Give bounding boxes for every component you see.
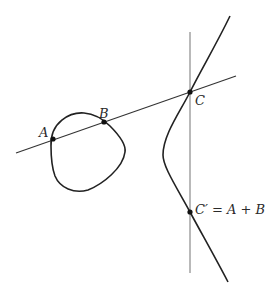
label-c: C [195,93,205,108]
label-c-prime-equals-a-plus-b: C′ = A + B [195,202,265,217]
label-a: A [38,125,48,140]
point-c-prime [187,209,192,214]
curve-unbounded-component [163,16,230,282]
secant-line [16,76,236,153]
curve-oval-component [51,113,125,191]
label-b: B [98,106,109,121]
elliptic-curve-diagram: A B C C′ = A + B [0,0,279,301]
point-c [187,89,192,94]
point-a [50,136,55,141]
